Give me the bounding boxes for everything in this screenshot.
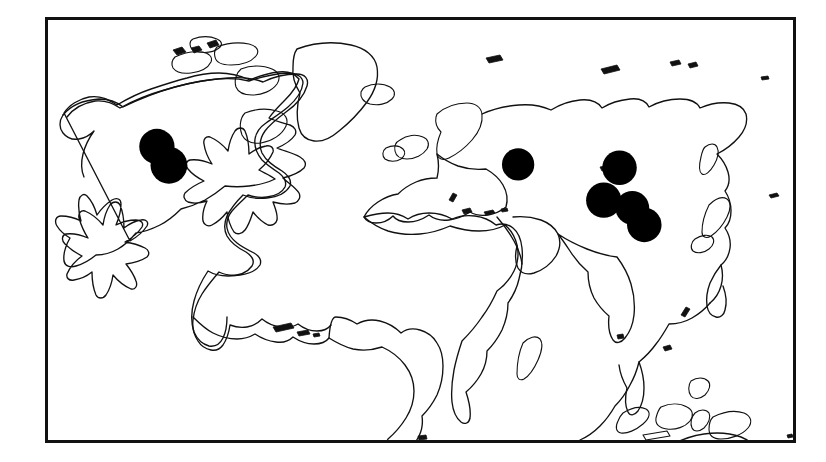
coastline-greenland (293, 43, 378, 141)
figure-root (0, 0, 826, 462)
coastlines-group (60, 37, 794, 443)
map-canvas (45, 17, 796, 443)
islet-sardinia (449, 193, 457, 202)
islet-cyprus (501, 208, 508, 212)
islet-wrangel (761, 76, 769, 80)
coastline-japan-south (691, 235, 713, 252)
distribution-markers (139, 129, 661, 242)
coastline-alaska (60, 115, 94, 177)
world-distribution-map (45, 17, 796, 443)
islet-falklands (418, 435, 427, 440)
islet-hispaniola (297, 330, 310, 336)
coastline-indochina (619, 362, 644, 415)
coastline-south-america (329, 317, 443, 443)
islet-sicily (462, 208, 472, 214)
coastline-kamchatka (707, 265, 726, 317)
coastline-new-guinea (709, 412, 751, 439)
coastline-philippines (689, 378, 710, 399)
islet-taiwan (681, 307, 690, 317)
coastline-japan (702, 198, 730, 238)
coastline-sakhalin (700, 144, 718, 175)
coastline-sumatra (616, 408, 649, 434)
islet-arctic-ru-2 (688, 62, 698, 68)
marker-southeast-china[interactable] (627, 208, 662, 243)
coastline-borneo (656, 404, 693, 429)
coastline-sulawesi (691, 410, 710, 431)
coastline-arabia (513, 217, 560, 274)
marker-caspian[interactable] (502, 148, 534, 180)
islet-puerto-rico (313, 333, 320, 337)
islet-svalbard (486, 55, 503, 63)
islet-fiji (787, 434, 793, 438)
marker-mongolia[interactable] (602, 151, 637, 186)
islet-arctic-ru-1 (670, 60, 681, 66)
islet-hainan (663, 345, 672, 351)
marker-na-south[interactable] (151, 147, 188, 184)
islet-sri-lanka (617, 334, 624, 339)
coastline-ireland (383, 146, 405, 161)
coastline-iceland (361, 84, 395, 105)
islet-novaya-zemlya (601, 65, 620, 74)
coastline-north-america (56, 72, 306, 298)
coastline-africa (364, 213, 522, 423)
map-border-frame (47, 19, 795, 442)
islet-aleutian (769, 193, 779, 198)
coastline-java (643, 431, 670, 440)
islet-cuba (273, 323, 294, 332)
coastline-madagascar (517, 337, 542, 380)
coastline-india (558, 234, 634, 342)
coastline-scandinavia (436, 103, 482, 159)
